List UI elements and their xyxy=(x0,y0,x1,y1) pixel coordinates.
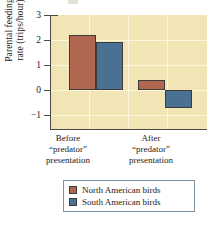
legend-swatch-south-american xyxy=(69,198,77,206)
x-axis-label-before-line-3: presentation xyxy=(25,155,111,166)
bar-before-north-american xyxy=(69,35,96,90)
x-axis-label-before: Before “predator” presentation xyxy=(25,133,111,165)
y-tick-label-2: 2 xyxy=(23,36,41,46)
image-crop-artifact xyxy=(68,0,78,4)
x-axis-label-after-line-1: After xyxy=(108,133,194,144)
y-tick-label-0: 0 xyxy=(23,86,41,96)
vertical-gridline-2 xyxy=(128,15,129,130)
y-tick-label-3: 3 xyxy=(23,11,41,21)
bar-before-south-american xyxy=(96,42,123,90)
y-tick-label-minus-1: −1 xyxy=(23,111,41,121)
bar-after-north-american xyxy=(138,80,165,90)
x-axis-label-after: After “predator” presentation xyxy=(108,133,194,165)
y-axis-title-line-1: Parental feeding xyxy=(4,0,15,62)
bar-chart-figure: Parental feeding rate (trips/hour) 3 2 1… xyxy=(0,0,212,227)
vertical-gridline-3 xyxy=(167,15,168,130)
legend-swatch-north-american xyxy=(69,186,77,194)
y-axis-title-line-2: rate (trips/hour) xyxy=(15,0,26,62)
legend-item-south-american: South American birds xyxy=(69,196,189,208)
legend-item-north-american: North American birds xyxy=(69,184,189,196)
plot-area xyxy=(50,15,207,130)
x-axis-label-before-line-1: Before xyxy=(25,133,111,144)
x-axis-label-after-line-3: presentation xyxy=(108,155,194,166)
legend: North American birds South American bird… xyxy=(63,180,195,212)
legend-label-north-american: North American birds xyxy=(82,186,160,195)
bar-after-south-american xyxy=(165,90,192,109)
x-axis-line xyxy=(50,129,207,130)
axis-frame-top-nub xyxy=(50,15,58,16)
x-axis-label-after-line-2: “predator” xyxy=(108,144,194,155)
legend-label-south-american: South American birds xyxy=(82,198,161,207)
y-tick-label-1: 1 xyxy=(23,61,41,71)
x-axis-label-before-line-2: “predator” xyxy=(25,144,111,155)
